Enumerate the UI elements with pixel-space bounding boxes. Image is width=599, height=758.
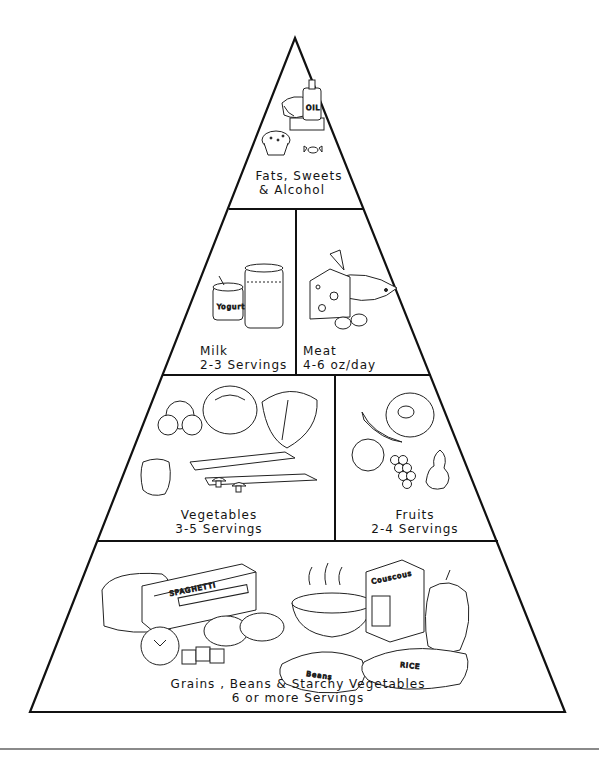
label-line-vegetables-title: Vegetables <box>175 508 262 522</box>
label-line-fats-2: & Alcohol <box>242 183 343 197</box>
svg-text:Yogurt: Yogurt <box>216 303 245 311</box>
tier-label-fats: Fats, Sweets & Alcohol <box>256 169 343 197</box>
label-line-milk-servings: 2-3 Servings <box>200 358 287 372</box>
tier-label-grains: Grains , Beans & Starchy Vegetables 6 or… <box>171 677 426 705</box>
section-label-meat: Meat 4-6 oz/day <box>303 344 376 372</box>
label-line-fruits-servings: 2-4 Servings <box>371 522 458 536</box>
label-line-grains-servings: 6 or more Servings <box>171 691 426 705</box>
food-pyramid-diagram: OIL Yogurt <box>0 0 599 758</box>
label-line-grains-title: Grains , Beans & Starchy Vegetables <box>171 677 426 691</box>
label-line-fats-1: Fats, Sweets <box>256 169 343 183</box>
section-label-fruits: Fruits 2-4 Servings <box>371 508 458 536</box>
label-line-meat-amount: 4-6 oz/day <box>303 358 376 372</box>
label-line-vegetables-servings: 3-5 Servings <box>175 522 262 536</box>
page-divider <box>0 748 599 750</box>
label-line-fruits-title: Fruits <box>371 508 458 522</box>
section-label-milk: Milk 2-3 Servings <box>200 344 287 372</box>
section-label-vegetables: Vegetables 3-5 Servings <box>175 508 262 536</box>
svg-text:OIL: OIL <box>306 104 320 112</box>
label-line-meat-title: Meat <box>303 344 376 358</box>
label-line-milk-title: Milk <box>200 344 287 358</box>
pyramid-outline: OIL Yogurt <box>0 0 599 758</box>
